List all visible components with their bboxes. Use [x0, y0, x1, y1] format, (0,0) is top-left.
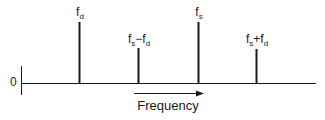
frequency-spectrum-diagram: 0 fd fs−fd fs fs+fd Frequency: [0, 0, 325, 120]
label-sub: s: [199, 12, 203, 21]
spike-label-fs-minus-fd: fs−fd: [128, 33, 150, 45]
spike-label-fd: fd: [76, 6, 84, 18]
frequency-axis-title: Frequency: [137, 99, 198, 112]
label-sub-2: d: [264, 39, 268, 48]
label-sub: d: [79, 12, 83, 21]
spike-label-fs: fs: [195, 6, 202, 18]
frequency-arrow-icon: [134, 91, 204, 97]
spike-label-fs-plus-fd: fs+fd: [246, 33, 268, 45]
label-sub-2: d: [146, 39, 150, 48]
origin-label: 0: [10, 76, 17, 88]
